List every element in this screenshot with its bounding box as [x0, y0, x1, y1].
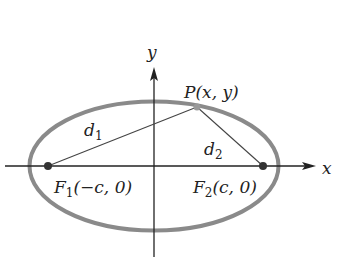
- d1-segment: [48, 107, 197, 166]
- d2-label: d2: [204, 139, 223, 162]
- focus2-label: F2(c, 0): [192, 177, 257, 200]
- focus1-label: F1(−c, 0): [53, 177, 132, 200]
- point-p: [194, 104, 201, 111]
- x-axis-label: x: [322, 158, 332, 178]
- focus1-point: [44, 162, 52, 170]
- d1-label: d1: [84, 120, 103, 143]
- y-axis-label: y: [146, 42, 157, 62]
- ellipse-diagram: y x P(x, y) d1 d2 F1(−c, 0) F2(c, 0): [0, 0, 339, 257]
- focus2-point: [259, 162, 267, 170]
- point-p-label: P(x, y): [183, 82, 239, 102]
